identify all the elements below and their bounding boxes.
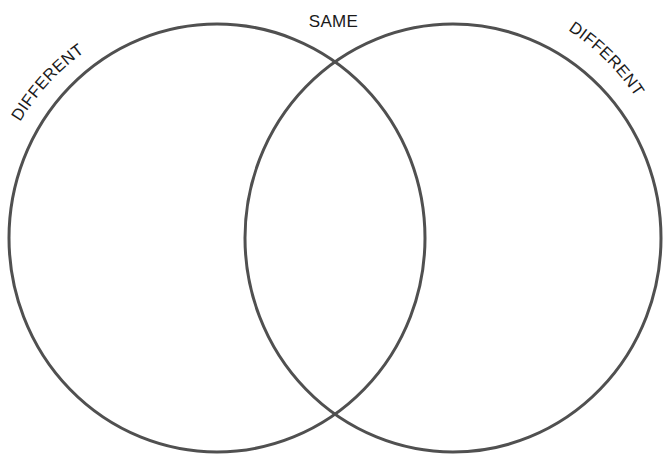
left-circle — [9, 24, 425, 452]
venn-diagram: DIFFERENT DIFFERENT SAME — [0, 0, 667, 462]
right-circle — [245, 24, 661, 452]
venn-canvas: DIFFERENT DIFFERENT — [0, 0, 667, 462]
same-label: SAME — [0, 12, 667, 32]
